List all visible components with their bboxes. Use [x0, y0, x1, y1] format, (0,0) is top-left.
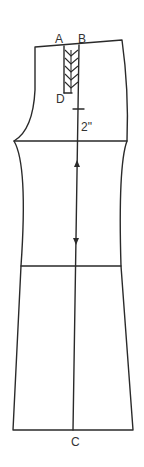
label-measurement: 2"	[81, 120, 92, 134]
label-b: B	[78, 32, 86, 46]
pattern-diagram: A B D 2" C	[0, 0, 144, 467]
arrow-down-icon	[73, 238, 79, 245]
label-a: A	[55, 32, 63, 46]
pattern-outline	[13, 40, 133, 430]
dart	[64, 46, 78, 93]
center-line	[73, 45, 79, 430]
arrow-up-icon	[74, 160, 80, 167]
label-d: D	[56, 92, 65, 106]
label-c: C	[71, 435, 80, 449]
